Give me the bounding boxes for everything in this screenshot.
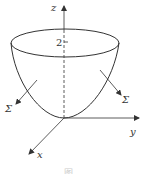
z-axis-label: z <box>50 2 57 13</box>
x-axis-label: x <box>37 149 43 160</box>
sigma-label-left: Σ <box>4 103 13 114</box>
x-axis <box>29 118 64 154</box>
figure-caption: 图 <box>64 168 73 174</box>
sigma-label-right: Σ <box>121 94 130 105</box>
paraboloid-diagram: z 2 y x Σ Σ 图 <box>0 0 143 174</box>
paraboloid-surface <box>11 43 119 118</box>
y-axis-label: y <box>129 126 136 137</box>
z-tick-label: 2 <box>56 37 62 48</box>
paraboloid-rim <box>11 29 119 57</box>
